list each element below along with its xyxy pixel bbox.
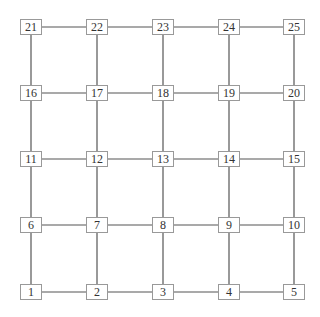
node-13: 13: [152, 151, 174, 167]
node-2: 2: [86, 284, 108, 300]
node-11: 11: [20, 151, 42, 167]
node-3: 3: [152, 284, 174, 300]
node-12: 12: [86, 151, 108, 167]
node-15: 15: [283, 151, 305, 167]
node-20: 20: [283, 85, 305, 101]
node-21: 21: [20, 19, 42, 35]
node-1: 1: [20, 284, 42, 300]
grid-graph-diagram: 1234567891011121314151617181920212223242…: [0, 0, 320, 317]
node-19: 19: [218, 85, 240, 101]
node-16: 16: [20, 85, 42, 101]
node-23: 23: [152, 19, 174, 35]
node-9: 9: [218, 217, 240, 233]
node-17: 17: [86, 85, 108, 101]
node-8: 8: [152, 217, 174, 233]
node-22: 22: [86, 19, 108, 35]
node-10: 10: [283, 217, 305, 233]
node-14: 14: [218, 151, 240, 167]
node-7: 7: [86, 217, 108, 233]
node-18: 18: [152, 85, 174, 101]
node-25: 25: [283, 19, 305, 35]
node-6: 6: [20, 217, 42, 233]
node-24: 24: [218, 19, 240, 35]
node-5: 5: [283, 284, 305, 300]
node-4: 4: [218, 284, 240, 300]
